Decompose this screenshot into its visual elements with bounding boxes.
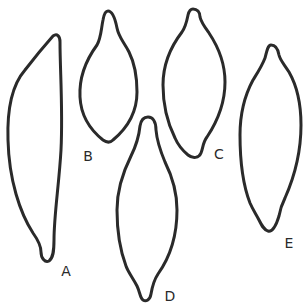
shape-b-label: B xyxy=(83,149,93,163)
shape-e-outline xyxy=(240,45,301,231)
shape-c-outline xyxy=(163,9,225,157)
shape-a-outline xyxy=(8,35,62,262)
shape-b-outline xyxy=(80,11,137,142)
shapes-svg xyxy=(0,0,303,305)
shape-d-label: D xyxy=(165,289,176,303)
shape-c-label: C xyxy=(214,147,224,161)
shape-a-label: A xyxy=(61,264,71,278)
shape-e-label: E xyxy=(285,236,294,250)
figure-canvas: A B C D E xyxy=(0,0,303,305)
shape-d-outline xyxy=(117,117,177,301)
